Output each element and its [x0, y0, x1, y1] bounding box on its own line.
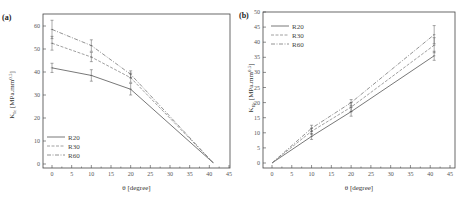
legend: R20R30R60	[271, 23, 304, 49]
x-tick-label: 45	[226, 171, 232, 177]
x-tick-label: 5	[290, 171, 293, 177]
panel-label: (b)	[239, 11, 249, 20]
series-r20	[272, 51, 436, 163]
panel-label: (a)	[2, 13, 12, 22]
y-tick-label: 0	[37, 161, 40, 167]
x-tick-label: 5	[70, 171, 73, 177]
x-tick-label: 45	[447, 171, 453, 177]
chart-panel-b: 05101520253035404505101520253035404550θ …	[239, 9, 455, 192]
x-tick-label: 15	[328, 171, 334, 177]
y-tick-label: 60	[34, 23, 40, 29]
x-tick-label: 0	[51, 171, 54, 177]
y-tick-label: 40	[254, 39, 260, 45]
y-tick-label: 50	[34, 46, 40, 52]
y-tick-label: 10	[34, 138, 40, 144]
x-tick-label: 20	[128, 171, 134, 177]
y-tick-label: 10	[254, 130, 260, 136]
x-axis: 051015202530354045	[51, 165, 233, 177]
legend-label-r20: R20	[68, 134, 80, 142]
x-tick-label: 15	[108, 171, 114, 177]
y-tick-label: 30	[34, 92, 40, 98]
x-axis: 051015202530354045	[271, 165, 454, 177]
x-axis-title: θ [degree]	[122, 184, 150, 192]
x-tick-label: 35	[187, 171, 193, 177]
legend-label-r60: R60	[292, 41, 304, 49]
legend-label-r60: R60	[68, 152, 80, 160]
x-tick-label: 35	[407, 171, 413, 177]
legend-label-r30: R30	[292, 32, 304, 40]
y-tick-label: 50	[254, 9, 260, 15]
y-tick-label: 15	[254, 115, 260, 121]
x-tick-label: 20	[348, 171, 354, 177]
y-axis: 05101520253035404550	[254, 9, 266, 166]
x-tick-label: 25	[147, 171, 153, 177]
series-r30	[272, 38, 436, 163]
y-tick-label: 35	[254, 54, 260, 60]
y-tick-label: 40	[34, 69, 40, 75]
x-tick-label: 30	[167, 171, 173, 177]
x-axis-title: θ [degree]	[345, 184, 373, 192]
x-tick-label: 10	[309, 171, 315, 177]
chart-panel-a: 0510152025303540450102030405060θ [degree…	[2, 13, 232, 192]
y-axis: 0102030405060	[34, 23, 46, 167]
chart-figure: 0510152025303540450102030405060θ [degree…	[0, 0, 474, 205]
x-tick-label: 30	[388, 171, 394, 177]
y-axis-title: KIc [MPa.mm0.5]	[8, 71, 17, 119]
legend: R20R30R60	[47, 134, 80, 160]
y-tick-label: 5	[257, 145, 260, 151]
x-tick-label: 10	[88, 171, 94, 177]
legend-label-r30: R30	[68, 143, 80, 151]
x-tick-label: 40	[427, 171, 433, 177]
legend-label-r20: R20	[292, 23, 304, 31]
x-tick-label: 0	[271, 171, 274, 177]
y-tick-label: 20	[34, 115, 40, 121]
x-tick-label: 25	[368, 171, 374, 177]
y-tick-label: 45	[254, 24, 260, 30]
y-tick-label: 0	[257, 160, 260, 166]
x-tick-label: 40	[206, 171, 212, 177]
